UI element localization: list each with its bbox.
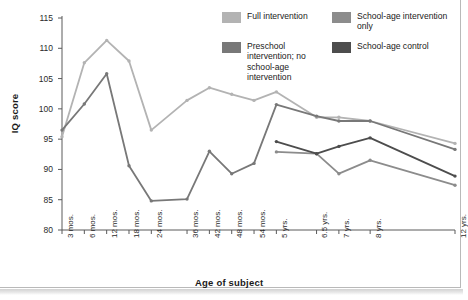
legend-swatch-school-age-intervention-only xyxy=(332,12,351,23)
x-axis-title: Age of subject xyxy=(195,277,263,288)
data-point xyxy=(315,114,318,117)
x-tick-label-3-mos-: 3 mos. xyxy=(66,214,75,238)
data-point xyxy=(105,39,108,42)
data-point xyxy=(185,99,188,102)
data-point xyxy=(127,164,130,167)
y-tick-label-85: 85 xyxy=(29,195,53,205)
x-tick-label-12-mos-: 12 mos. xyxy=(110,210,119,238)
data-point xyxy=(453,142,456,145)
x-tick-label-48-mos-: 48 mos. xyxy=(235,210,244,238)
data-point xyxy=(337,145,340,148)
y-tick-label-80: 80 xyxy=(29,225,53,235)
y-tick-label-100: 100 xyxy=(29,104,53,114)
x-tick-label-36-mos-: 36 mos. xyxy=(191,210,200,238)
data-point xyxy=(230,172,233,175)
data-point xyxy=(337,119,340,122)
data-point xyxy=(337,116,340,119)
legend-swatch-preschool-intervention xyxy=(222,42,241,53)
data-point xyxy=(368,136,371,139)
data-point xyxy=(453,174,456,177)
x-tick-label-8-yrs-: 8 yrs. xyxy=(374,218,383,238)
x-tick-label-24-mos-: 24 mos. xyxy=(155,210,164,238)
legend-item-preschool-intervention[interactable]: Preschool intervention; no school-age in… xyxy=(222,41,326,83)
data-point xyxy=(337,172,340,175)
data-point xyxy=(150,128,153,131)
data-point xyxy=(275,140,278,143)
legend-label-school-age-control: School-age control xyxy=(357,41,429,51)
data-point xyxy=(83,61,86,64)
data-point xyxy=(105,72,108,75)
data-point xyxy=(275,150,278,153)
y-tick-label-110: 110 xyxy=(29,43,53,53)
y-tick-label-115: 115 xyxy=(29,13,53,23)
x-tick-label-5-yrs-: 5 yrs. xyxy=(280,218,289,238)
data-point xyxy=(252,99,255,102)
data-point xyxy=(368,119,371,122)
legend-label-preschool-intervention: Preschool intervention; no school-age in… xyxy=(247,41,326,83)
legend-item-school-age-intervention-only[interactable]: School-age intervention only xyxy=(332,11,458,32)
x-tick-label-6-5-yrs-: 6.5 yrs. xyxy=(320,212,329,238)
x-tick-label-18-mos-: 18 mos. xyxy=(132,210,141,238)
legend-item-school-age-control[interactable]: School-age control xyxy=(332,41,458,83)
data-point xyxy=(230,93,233,96)
data-point xyxy=(453,148,456,151)
data-point xyxy=(453,184,456,187)
series-line-school-age-control xyxy=(276,138,455,176)
legend-swatch-full-intervention xyxy=(222,12,241,23)
data-point xyxy=(150,199,153,202)
data-point xyxy=(60,128,63,131)
legend-label-full-intervention: Full intervention xyxy=(247,11,308,21)
x-tick-label-42-mos-: 42 mos. xyxy=(213,210,222,238)
chart-legend: Full intervention School-age interventio… xyxy=(222,11,458,91)
x-tick-label-7-yrs-: 7 yrs. xyxy=(342,218,351,238)
series-line-school-age-intervention-only xyxy=(276,152,455,185)
data-point xyxy=(185,197,188,200)
data-point xyxy=(208,150,211,153)
data-point xyxy=(208,86,211,89)
data-point xyxy=(252,162,255,165)
x-tick-label-6-mos-: 6 mos. xyxy=(88,214,97,238)
legend-label-school-age-intervention-only: School-age intervention only xyxy=(357,11,458,32)
y-tick-label-105: 105 xyxy=(29,74,53,84)
data-point xyxy=(275,103,278,106)
y-axis-title: IQ score xyxy=(9,84,20,144)
series-line-preschool-intervention-no-school-age-intervention xyxy=(62,74,455,201)
data-point xyxy=(368,159,371,162)
legend-swatch-school-age-control xyxy=(332,42,351,53)
y-tick-label-95: 95 xyxy=(29,134,53,144)
x-tick-label-54-mos-: 54 mos. xyxy=(258,210,267,238)
legend-item-full-intervention[interactable]: Full intervention xyxy=(222,11,326,32)
data-point xyxy=(60,135,63,138)
x-tick-label-12-yrs-: 12 yrs. xyxy=(459,214,468,238)
data-point xyxy=(83,102,86,105)
data-point xyxy=(315,152,318,155)
y-tick-label-90: 90 xyxy=(29,164,53,174)
data-point xyxy=(127,59,130,62)
